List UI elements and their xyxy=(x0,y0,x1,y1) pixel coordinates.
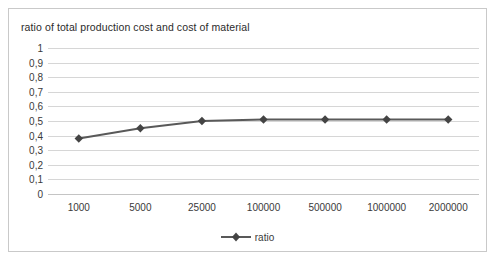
y-axis-tick-label: 0,4 xyxy=(29,130,43,141)
data-point-marker xyxy=(259,115,267,123)
x-axis-tick-label: 1000000 xyxy=(356,202,418,222)
chart-legend: ratio xyxy=(9,231,486,243)
data-point-marker xyxy=(198,117,206,125)
y-axis-tick-label: 0,6 xyxy=(29,101,43,112)
y-axis-tick-label: 0,5 xyxy=(29,116,43,127)
x-axis-tick-labels: 100050002500010000050000010000002000000 xyxy=(48,202,479,222)
x-axis-tick-label: 25000 xyxy=(171,202,233,222)
y-axis-tick-label: 0,1 xyxy=(29,174,43,185)
y-axis-tick-label: 1 xyxy=(37,43,43,54)
x-axis-tick-label: 5000 xyxy=(110,202,172,222)
y-axis-tick-label: 0 xyxy=(37,189,43,200)
x-axis-tick-label: 500000 xyxy=(294,202,356,222)
series-line-ratio xyxy=(48,48,479,194)
x-axis-tick-label: 1000 xyxy=(48,202,110,222)
data-point-marker xyxy=(136,124,144,132)
legend-marker-icon xyxy=(221,231,251,243)
gridline xyxy=(48,194,479,195)
data-point-marker xyxy=(382,115,390,123)
x-axis-tick-label: 100000 xyxy=(233,202,295,222)
y-axis-tick-label: 0,9 xyxy=(29,57,43,68)
y-axis-tick-label: 0,2 xyxy=(29,159,43,170)
chart-frame: ratio of total production cost and cost … xyxy=(8,8,487,252)
y-axis-tick-label: 0,3 xyxy=(29,145,43,156)
plot-area: 10,90,80,70,60,50,40,30,20,10 xyxy=(48,48,479,194)
chart-title: ratio of total production cost and cost … xyxy=(21,21,250,33)
y-axis-tick-label: 0,7 xyxy=(29,86,43,97)
legend-label-ratio: ratio xyxy=(255,232,274,243)
x-axis-tick-label: 2000000 xyxy=(417,202,479,222)
data-point-marker xyxy=(75,134,83,142)
y-axis-tick-label: 0,8 xyxy=(29,72,43,83)
data-point-marker xyxy=(321,115,329,123)
data-point-marker xyxy=(444,115,452,123)
